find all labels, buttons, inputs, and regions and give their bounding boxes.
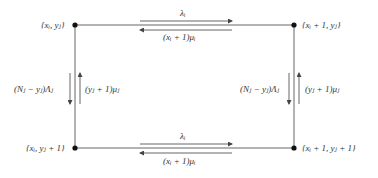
edge-label-left-up: (yⱼ + 1)μⱼ (85, 84, 119, 94)
edge-label-right-up: (yⱼ + 1)μⱼ (305, 84, 339, 94)
edge-label-bottom-backward: (xᵢ + 1)μᵢ (163, 156, 195, 166)
edge-label-left-down: (Nⱼ − yⱼ)Λⱼ (14, 84, 53, 94)
node-dot-bottom-right (291, 145, 296, 150)
node-label-top-left: {xᵢ, yⱼ} (41, 20, 65, 30)
edge-label-top-backward: (xᵢ + 1)μᵢ (163, 32, 195, 42)
node-label-bottom-right: {xᵢ + 1, yⱼ + 1} (302, 143, 356, 153)
node-label-bottom-left: {xᵢ, yⱼ + 1} (26, 143, 65, 153)
node-label-top-right: {xᵢ + 1, yⱼ} (302, 20, 341, 30)
edge-label-right-down: (Nⱼ − yⱼ)Λⱼ (240, 84, 279, 94)
edge-label-top-forward: λᵢ (180, 8, 185, 18)
node-dot-top-left (72, 22, 77, 27)
node-dot-bottom-left (72, 145, 77, 150)
edge-label-bottom-forward: λᵢ (180, 131, 185, 141)
node-dot-top-right (291, 22, 296, 27)
